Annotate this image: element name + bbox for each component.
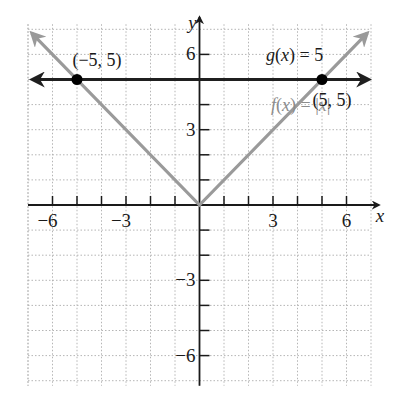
x-tick-label: −6	[37, 210, 57, 231]
x-tick-label: 6	[342, 210, 352, 231]
y-tick-label: 6	[186, 43, 196, 64]
intersection-point	[72, 74, 83, 85]
labels: −6−33663−3−6xyg(x) = 5f(x) = |x|(−5, 5)(…	[37, 12, 384, 366]
y-tick-label: −3	[175, 269, 195, 290]
x-tick-label: 3	[268, 210, 278, 231]
chart: −6−33663−3−6xyg(x) = 5f(x) = |x|(−5, 5)(…	[0, 0, 406, 402]
y-tick-label: −6	[175, 345, 195, 366]
intersection-point	[317, 74, 328, 85]
point-label: (−5, 5)	[72, 50, 121, 71]
y-axis-label: y	[186, 12, 197, 33]
x-tick-label: −3	[111, 210, 131, 231]
y-tick-label: 3	[186, 119, 196, 140]
series-label-g: g(x) = 5	[266, 45, 323, 66]
x-axis-label: x	[375, 205, 385, 226]
point-label: (5, 5)	[313, 90, 352, 111]
